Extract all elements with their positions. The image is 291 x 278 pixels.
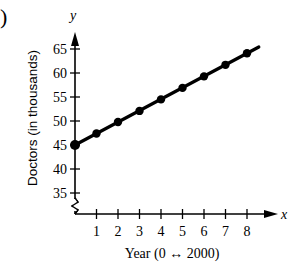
data-point [243,49,251,57]
y-tick-label: 40 [53,162,67,177]
chart: ) y x 35404550556065 12345678 Year (0 ↔ … [0,0,291,278]
plot-area [70,47,259,150]
y-tick-label: 45 [53,138,67,153]
x-tick-label: 2 [115,224,122,239]
y-tick-label: 50 [53,114,67,129]
x-axis-arrow-icon [264,210,278,218]
y-axis-label: Doctors (in thousands) [25,50,40,186]
y-axis-symbol: y [68,8,77,23]
data-point [178,84,186,92]
x-tick-label: 3 [136,224,143,239]
panel-label: ) [0,4,7,29]
x-tick-label: 1 [93,224,100,239]
data-point [70,140,80,150]
x-tick-label: 7 [222,224,229,239]
x-tick-label: 5 [179,224,186,239]
y-ticks: 35404550556065 [53,42,80,201]
data-point [135,107,143,115]
y-tick-label: 55 [53,90,67,105]
y-tick-label: 60 [53,66,67,81]
x-tick-label: 4 [158,224,165,239]
x-tick-label: 8 [244,224,251,239]
y-axis-arrow-icon [71,32,79,46]
x-axis-symbol: x [280,207,288,222]
y-tick-label: 35 [53,186,67,201]
data-point [221,61,229,69]
x-tick-label: 6 [201,224,208,239]
data-point [92,129,100,137]
data-point [157,95,165,103]
data-point [114,118,122,126]
data-point [200,72,208,80]
y-tick-label: 65 [53,42,67,57]
x-axis-label: Year (0 ↔ 2000) [125,246,220,262]
trend-line [75,47,259,145]
